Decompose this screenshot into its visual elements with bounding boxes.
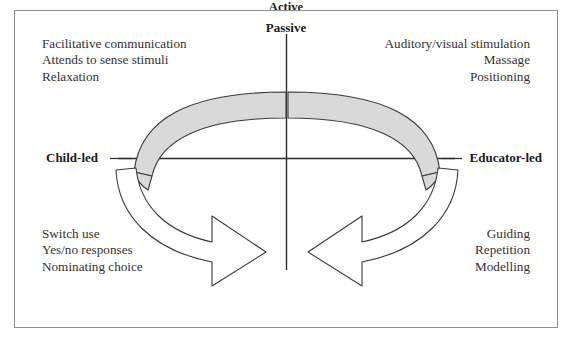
top-right-arc-band (288, 92, 440, 176)
axis-label-child-led: Child-led (46, 150, 98, 166)
quadrant-text-top-right: Auditory/visual stimulation Massage Posi… (385, 36, 530, 85)
figure-container: Facilitative communication Attends to se… (0, 0, 572, 344)
quadrant-text-bottom-right: Guiding Repetition Modelling (475, 226, 530, 275)
quadrant-text-top-left: Facilitative communication Attends to se… (42, 36, 187, 85)
top-left-arc-band (134, 92, 286, 176)
axis-label-educator-led: Educator-led (470, 150, 542, 166)
bottom-right-curved-arrow (308, 168, 458, 286)
axis-label-passive: Passive (0, 20, 572, 36)
quadrant-text-bottom-left: Switch use Yes/no responses Nominating c… (42, 226, 143, 275)
